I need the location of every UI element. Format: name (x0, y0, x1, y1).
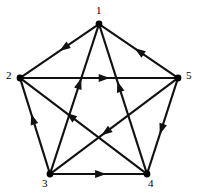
graph-vertex (17, 75, 24, 82)
arrowheads-layer (31, 42, 167, 178)
edge-arrowhead (31, 114, 38, 126)
graph-edge (100, 27, 146, 172)
graph-edge (22, 26, 96, 77)
edges-layer (21, 26, 177, 174)
vertex-label-5: 5 (186, 70, 192, 81)
vertex-label-3: 3 (42, 178, 48, 189)
graph-canvas (0, 0, 198, 194)
edge-arrowhead (60, 42, 71, 51)
edge-arrowhead (74, 78, 81, 90)
vertices-layer (17, 21, 182, 178)
vertex-label-2: 2 (6, 70, 12, 81)
graph-edge (52, 80, 176, 173)
edge-arrowhead (159, 123, 166, 135)
edge-arrowhead (117, 81, 124, 93)
graph-edge (51, 27, 98, 172)
edge-arrowhead (99, 74, 110, 82)
vertex-label-4: 4 (148, 178, 154, 189)
edge-arrowhead (95, 170, 106, 178)
graph-vertex (96, 21, 103, 28)
vertex-label-1: 1 (96, 5, 102, 16)
graph-edge (21, 81, 49, 172)
graph-edge (22, 80, 145, 173)
directed-graph-figure: 12345 (0, 0, 198, 194)
graph-vertex (175, 75, 182, 82)
edge-arrowhead (135, 48, 146, 57)
